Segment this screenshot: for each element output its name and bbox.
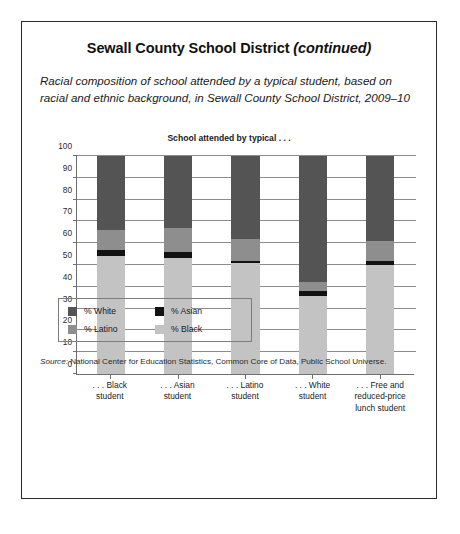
legend-item[interactable]: % Asian bbox=[155, 306, 242, 316]
x-axis-tick-mark bbox=[178, 374, 179, 379]
legend-item[interactable]: % Black bbox=[155, 324, 242, 334]
x-axis-label-line: lunch student bbox=[348, 403, 412, 414]
figure-card: Sewall County School District (continued… bbox=[21, 21, 437, 499]
figure-title: Sewall County School District (continued… bbox=[22, 40, 436, 56]
legend-label: % Asian bbox=[171, 306, 202, 316]
x-axis-label-line: . . . White bbox=[280, 380, 344, 391]
x-axis-labels: . . . Blackstudent. . . Asianstudent. . … bbox=[76, 380, 414, 414]
bar-segment bbox=[231, 156, 259, 239]
bar-segment bbox=[231, 239, 259, 261]
y-axis-tick-label: 70 bbox=[63, 206, 72, 216]
y-axis-tick-label: 100 bbox=[58, 141, 72, 151]
y-axis-tick-label: 50 bbox=[63, 250, 72, 260]
bar-segment bbox=[231, 261, 259, 263]
x-axis-label-line: . . . Latino bbox=[213, 380, 277, 391]
source-label: Source: bbox=[40, 357, 68, 366]
x-axis-label-line: student bbox=[280, 391, 344, 402]
x-axis-label-line: student bbox=[78, 391, 142, 402]
y-axis-tick-label: 60 bbox=[63, 228, 72, 238]
figure-subtitle: Racial composition of school attended by… bbox=[40, 72, 422, 107]
source-text: National Center for Education Statistics… bbox=[68, 357, 387, 366]
x-axis-label: . . . Blackstudent bbox=[78, 380, 142, 414]
legend-swatch bbox=[155, 325, 164, 334]
x-axis-tick-mark bbox=[245, 374, 246, 379]
bar-segment bbox=[97, 250, 125, 257]
bar-slot bbox=[281, 156, 345, 374]
figure-title-continued: (continued) bbox=[293, 40, 371, 56]
x-axis-label: . . . Asianstudent bbox=[145, 380, 209, 414]
chart-legend: % White% Asian% Latino% Black bbox=[58, 298, 252, 342]
bar-segment bbox=[164, 252, 192, 259]
x-axis-label: . . . Free andreduced-pricelunch student bbox=[348, 380, 412, 414]
stacked-bar[interactable] bbox=[366, 156, 394, 374]
x-axis-label-line: student bbox=[145, 391, 209, 402]
legend-label: % Latino bbox=[84, 324, 117, 334]
legend-swatch bbox=[155, 307, 164, 316]
y-axis-tick-label: 90 bbox=[63, 163, 72, 173]
bar-segment bbox=[366, 261, 394, 265]
legend-swatch bbox=[68, 325, 77, 334]
x-axis-label-line: . . . Asian bbox=[145, 380, 209, 391]
bar-segment bbox=[299, 156, 327, 282]
source-note: Source: National Center for Education St… bbox=[40, 357, 424, 366]
stacked-bar[interactable] bbox=[299, 156, 327, 374]
legend-label: % Black bbox=[171, 324, 202, 334]
legend-item[interactable]: % Latino bbox=[68, 324, 155, 334]
bar-segment bbox=[164, 228, 192, 252]
legend-swatch bbox=[68, 307, 77, 316]
x-axis-label-line: reduced-price bbox=[348, 391, 412, 402]
x-axis-label-line: student bbox=[213, 391, 277, 402]
legend-label: % White bbox=[84, 306, 116, 316]
bar-chart: 0102030405060708090100 . . . Blackstuden… bbox=[38, 150, 422, 382]
page-root: Sewall County School District (continued… bbox=[0, 0, 460, 534]
bar-segment bbox=[97, 230, 125, 250]
bar-slot bbox=[348, 156, 412, 374]
bar-segment bbox=[97, 156, 125, 230]
x-axis-label: . . . Latinostudent bbox=[213, 380, 277, 414]
x-axis-tick-mark bbox=[380, 374, 381, 379]
y-axis-tick-label: 80 bbox=[63, 185, 72, 195]
x-axis-label-line: . . . Free and bbox=[348, 380, 412, 391]
y-axis-tick-label: 40 bbox=[63, 272, 72, 282]
bar-segment bbox=[299, 282, 327, 291]
bar-segment bbox=[366, 241, 394, 261]
bar-segment bbox=[164, 156, 192, 228]
bar-segment bbox=[299, 291, 327, 295]
legend-item[interactable]: % White bbox=[68, 306, 155, 316]
x-axis-label-line: . . . Black bbox=[78, 380, 142, 391]
x-axis-tick-mark bbox=[312, 374, 313, 379]
x-axis-tick-mark bbox=[110, 374, 111, 379]
x-axis-label: . . . Whitestudent bbox=[280, 380, 344, 414]
plot-title: School attended by typical . . . bbox=[22, 133, 436, 143]
bar-segment bbox=[366, 156, 394, 241]
figure-title-main: Sewall County School District bbox=[87, 40, 293, 56]
plot-area: 0102030405060708090100 bbox=[76, 156, 414, 375]
